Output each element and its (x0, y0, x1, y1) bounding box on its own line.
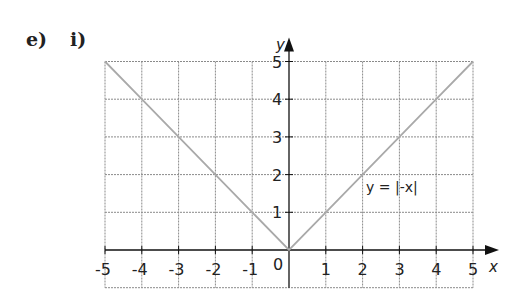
svg-text:-4: -4 (132, 260, 148, 279)
svg-text:4: 4 (431, 260, 441, 279)
svg-text:-5: -5 (95, 260, 111, 279)
svg-text:1: 1 (272, 203, 282, 222)
tick-labels: -5-4-3-2-101234512345 (95, 53, 478, 280)
svg-text:2: 2 (272, 166, 282, 185)
svg-text:2: 2 (358, 260, 368, 279)
svg-text:0: 0 (273, 255, 283, 274)
equation-annotation: y = |-x| (366, 179, 418, 196)
graph: -5-4-3-2-101234512345 x y y = |-x| (0, 0, 516, 299)
x-axis-label: x (488, 258, 498, 276)
svg-text:5: 5 (272, 53, 282, 72)
y-axis-label: y (275, 36, 286, 54)
svg-text:1: 1 (321, 260, 331, 279)
svg-text:-2: -2 (205, 260, 221, 279)
svg-text:3: 3 (272, 128, 282, 147)
axes (105, 38, 499, 288)
svg-text:-1: -1 (242, 260, 258, 279)
svg-text:3: 3 (394, 260, 404, 279)
svg-text:5: 5 (468, 260, 478, 279)
svg-text:-3: -3 (169, 260, 185, 279)
svg-text:4: 4 (272, 90, 282, 109)
